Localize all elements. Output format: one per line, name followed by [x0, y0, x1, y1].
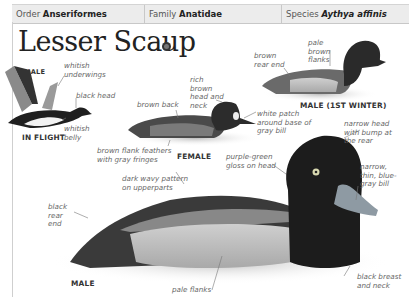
caption-female: FEMALE	[177, 152, 211, 161]
label-pale-brown-flanks: pale brown flanks	[308, 39, 348, 65]
label-black-rear-end: black rear end	[48, 203, 78, 229]
label-whitish-underwings: whitish underwings	[64, 62, 104, 79]
caption-first-winter: MALE (1ST WINTER)	[300, 101, 387, 110]
label-rich-brown-head: rich brown head and neck	[190, 76, 226, 110]
label-black-head: black head	[76, 92, 115, 101]
label-purple-green-gloss: purple-green gloss on head	[226, 153, 276, 170]
label-white-patch: white patch around base of gray bill	[257, 110, 317, 136]
caption-male: MALE	[71, 279, 95, 288]
label-dark-wavy-pattern: dark wavy pattern on upperparts	[122, 175, 188, 192]
label-narrow-head: narrow head with bump at the rear	[344, 120, 394, 146]
label-brown-back: brown back	[137, 101, 179, 110]
caption-in-flight: IN FLIGHT	[22, 133, 65, 142]
label-narrow-bill: narrow, thin, blue-gray bill	[360, 163, 398, 189]
caption-flight-male: MALE	[24, 68, 45, 76]
label-pale-flanks: pale flanks	[172, 286, 211, 295]
label-whitish-belly: whitish belly	[64, 125, 92, 142]
label-black-breast: black breast and neck	[357, 273, 403, 290]
label-brown-rear-end: brown rear end	[254, 52, 288, 69]
label-brown-flank-feathers: brown flank feathers with gray fringes	[97, 147, 177, 164]
